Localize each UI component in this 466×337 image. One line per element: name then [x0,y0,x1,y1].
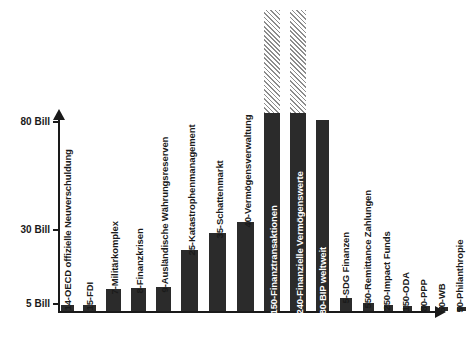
category-label: 5-SDG Finanzen [341,232,351,303]
category-label: 250-Impact Funds [382,231,392,310]
category-label: 9-Ausländische Währungsreserven [160,137,170,293]
y-tick-label-5: 5 Bill [2,298,50,309]
y-tick-mark-80 [53,121,59,123]
y-axis-line [58,118,60,313]
bar [181,250,198,311]
category-label: 7-Militärkomplex [110,221,120,294]
category-label: 550-Remittance Zahlungen [363,190,373,309]
x-axis-line [58,311,439,313]
y-tick-mark-5 [53,303,59,305]
bar [237,222,254,311]
category-label: 80-PPP [419,279,429,311]
category-label: 25-Katastrophenmanagement [187,124,197,255]
category-label: 14-OECD offizielle Neuverschuldung [63,149,73,310]
y-tick-mark-30 [53,229,59,231]
category-label: 35-Schattenmarkt [215,160,225,238]
category-label: 40-Vermögensverwaltung [243,115,253,228]
category-label: 15-FDI [85,282,95,310]
bar-overflow-segment [290,10,306,113]
y-axis-arrow-icon [53,109,65,120]
bar [209,233,226,311]
category-label: 80-BIP weltweit [318,247,328,315]
category-label: 8-Finanzkrisen [135,228,145,293]
y-tick-label-80: 80 Bill [2,116,50,127]
category-label: 150-ODA [401,272,411,311]
category-label: 150-Finanztransaktionen [269,205,279,314]
category-label: 50-WB [437,283,447,312]
bar-overflow-segment [264,10,280,113]
category-label: 50-Philanthropie [455,240,465,313]
category-label: 240-Finanzielle Vermögenswerte [295,171,305,314]
y-tick-label-30: 30 Bill [2,224,50,235]
